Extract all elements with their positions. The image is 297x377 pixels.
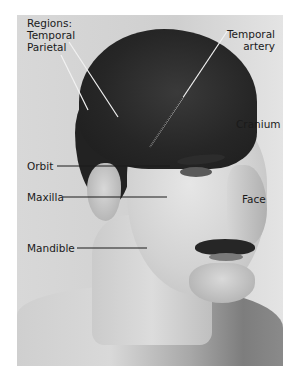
label-temporal-region: Temporal bbox=[27, 29, 75, 41]
label-mandible: Mandible bbox=[27, 242, 75, 254]
label-face: Face bbox=[242, 193, 266, 205]
label-maxilla: Maxilla bbox=[27, 191, 64, 203]
label-cranium: Cranium bbox=[236, 118, 281, 130]
leader-temporal bbox=[69, 42, 118, 117]
label-temporal-artery-line2: artery bbox=[215, 40, 275, 52]
leader-temporal-artery-dark bbox=[150, 97, 183, 147]
leader-lines bbox=[0, 0, 297, 377]
label-temporal-artery-line1: Temporal bbox=[215, 28, 275, 40]
leader-parietal bbox=[61, 55, 88, 110]
label-parietal-region: Parietal bbox=[27, 41, 66, 53]
label-orbit: Orbit bbox=[27, 160, 53, 172]
label-regions-heading: Regions: bbox=[27, 17, 72, 29]
